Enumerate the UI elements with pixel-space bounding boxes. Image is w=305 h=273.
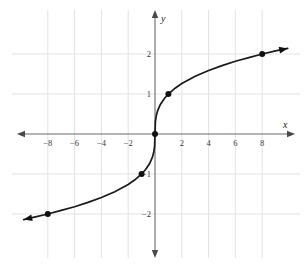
cube-root-graph-figure: −8−6−4−22468 21−1−2 x y — [0, 0, 305, 273]
y-tick-label: −2 — [142, 209, 151, 219]
y-tick-label: 2 — [147, 49, 151, 59]
x-tick-label: 6 — [233, 138, 237, 148]
data-point — [165, 91, 171, 97]
plot-background — [0, 0, 305, 273]
data-point — [139, 171, 145, 177]
data-point — [45, 211, 51, 217]
y-axis-label: y — [160, 13, 166, 24]
x-tick-label: −8 — [43, 138, 52, 148]
x-tick-label: 4 — [206, 138, 211, 148]
x-tick-label: −4 — [97, 138, 107, 148]
x-tick-label: 2 — [180, 138, 184, 148]
x-tick-label: 8 — [260, 138, 264, 148]
y-tick-label: 1 — [147, 89, 151, 99]
coordinate-plane-svg: −8−6−4−22468 21−1−2 x y — [0, 0, 305, 273]
data-point — [152, 131, 158, 137]
x-tick-label: −6 — [70, 138, 79, 148]
x-axis-label: x — [282, 119, 288, 130]
x-tick-label: −2 — [124, 138, 133, 148]
data-point — [259, 51, 265, 57]
